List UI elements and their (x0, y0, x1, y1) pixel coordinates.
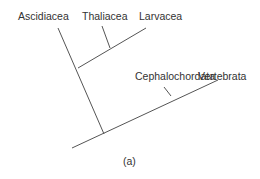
taxon-label-thaliacea: Thaliacea (82, 10, 128, 22)
root-branch (72, 80, 218, 148)
tunicate-inner-branch (78, 28, 146, 68)
cephalochordata-branch (164, 87, 171, 96)
taxon-label-larvacea: Larvacea (139, 10, 182, 22)
ascidiacea-branch (58, 28, 104, 134)
taxon-label-ascidiacea: Ascidiacea (18, 10, 69, 22)
cladogram-tree (0, 0, 260, 179)
thaliacea-branch (102, 26, 110, 48)
figure-caption: (a) (123, 155, 136, 167)
taxon-label-vertebrata: Vertebrata (198, 70, 246, 82)
